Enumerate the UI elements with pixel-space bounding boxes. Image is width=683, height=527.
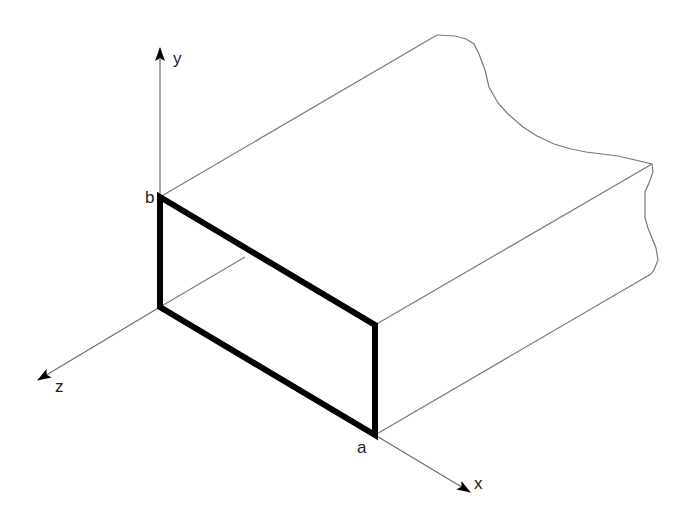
- top-right-edge: [375, 164, 652, 325]
- top-left-edge: [160, 35, 437, 197]
- z-axis-label: z: [55, 377, 64, 396]
- height-label-b: b: [145, 188, 154, 207]
- bottom-right-edge: [375, 274, 651, 435]
- waveguide-diagram: y z x b a: [0, 0, 683, 527]
- z-axis: [38, 307, 160, 380]
- cut-profile: [437, 35, 658, 274]
- width-label-a: a: [357, 438, 367, 457]
- y-axis-label: y: [173, 49, 182, 68]
- x-axis-label: x: [474, 474, 483, 493]
- cross-section: [160, 197, 375, 435]
- x-axis: [375, 435, 470, 492]
- hidden-edge: [160, 257, 245, 307]
